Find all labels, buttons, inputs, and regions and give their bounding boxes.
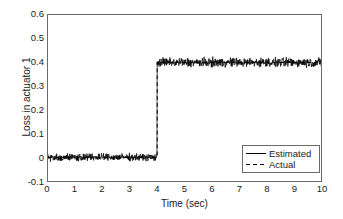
- x-tick-label: 2: [87, 184, 117, 194]
- solid-line-icon: [245, 149, 266, 158]
- y-axis-title: Loss in actuator 1: [21, 13, 33, 181]
- dashed-line-icon: [245, 160, 266, 169]
- figure-chart: 0.6 0.5 0.4 0.3 0.2 0.1 0 -0.1 0 1 2 3 4…: [0, 0, 343, 219]
- x-tick-label: 9: [280, 184, 310, 194]
- x-tick-label: 10: [307, 184, 337, 194]
- legend: Estimated Actual: [242, 145, 320, 173]
- x-tick-label: 3: [115, 184, 145, 194]
- legend-item-actual: Actual: [245, 159, 316, 170]
- series-line-actual: [48, 62, 321, 157]
- x-tick-label: 8: [252, 184, 282, 194]
- legend-item-estimated: Estimated: [245, 148, 316, 159]
- x-tick-label: 1: [60, 184, 90, 194]
- legend-label: Actual: [269, 159, 295, 170]
- x-tick-label: 5: [170, 184, 200, 194]
- legend-label: Estimated: [269, 148, 311, 159]
- x-tick-label: 0: [32, 184, 62, 194]
- x-tick-label: 6: [197, 184, 227, 194]
- x-axis-title: Time (sec): [47, 198, 322, 210]
- x-tick-label: 4: [142, 184, 172, 194]
- x-tick-label: 7: [225, 184, 255, 194]
